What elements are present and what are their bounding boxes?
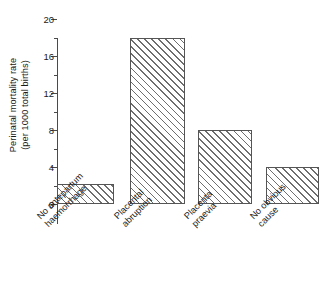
y-axis-title-line1: Perinatal mortality rate xyxy=(8,58,20,152)
y-tick-label-8: 8 xyxy=(49,125,54,136)
y-axis-title: Perinatal mortality rate (per 1000 total… xyxy=(0,0,38,210)
y-tick-label-16: 16 xyxy=(43,51,54,62)
bar-placental-abruption[interactable] xyxy=(130,38,185,205)
y-tick-label-4: 4 xyxy=(49,162,54,173)
y-tick-label-12: 12 xyxy=(43,88,54,99)
bar-chart: Perinatal mortality rate (per 1000 total… xyxy=(0,0,325,288)
plot-area: 0 4 8 12 16 20 xyxy=(57,19,325,204)
y-axis-title-line2: (per 1000 total births) xyxy=(19,58,31,152)
y-tick-label-20: 20 xyxy=(43,14,54,25)
